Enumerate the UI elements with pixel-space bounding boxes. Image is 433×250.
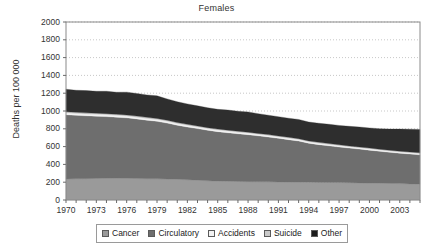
x-tick-label: 1970 xyxy=(51,206,81,215)
y-tick-label: 0 xyxy=(26,196,60,205)
legend-swatch-icon xyxy=(208,230,215,237)
legend-label: Accidents xyxy=(218,229,255,238)
legend-label: Other xyxy=(321,229,342,238)
legend-swatch-icon xyxy=(264,230,271,237)
chart-container: Females Deaths per 100 000 2000180016001… xyxy=(0,0,433,250)
x-tick-label: 1994 xyxy=(294,206,324,215)
x-tick-label: 1988 xyxy=(233,206,263,215)
x-tick-label: 1976 xyxy=(112,206,142,215)
y-tick-label: 1400 xyxy=(26,71,60,80)
chart-title: Females xyxy=(0,3,433,13)
legend-item: Suicide xyxy=(264,229,302,238)
y-tick-label: 1000 xyxy=(26,107,60,116)
x-tick-label: 1973 xyxy=(81,206,111,215)
legend-label: Cancer xyxy=(112,229,139,238)
legend-item: Other xyxy=(311,229,342,238)
legend-swatch-icon xyxy=(311,230,318,237)
legend-item: Accidents xyxy=(208,229,255,238)
x-tick-label: 1991 xyxy=(263,206,293,215)
legend-swatch-icon xyxy=(102,230,109,237)
y-axis-title: Deaths per 100 000 xyxy=(11,29,21,169)
legend-swatch-icon xyxy=(148,230,155,237)
y-tick-label: 2000 xyxy=(26,18,60,27)
x-tick-label: 1997 xyxy=(324,206,354,215)
x-tick-label: 2000 xyxy=(354,206,384,215)
x-tick-label: 2003 xyxy=(385,206,415,215)
x-tick-label: 1982 xyxy=(172,206,202,215)
legend-label: Suicide xyxy=(274,229,302,238)
legend-item: Cancer xyxy=(102,229,139,238)
y-tick-label: 1800 xyxy=(26,35,60,44)
legend-label: Circulatory xyxy=(158,229,199,238)
y-tick-label: 600 xyxy=(26,142,60,151)
x-tick-label: 1979 xyxy=(142,206,172,215)
legend-item: Circulatory xyxy=(148,229,199,238)
x-tick-label: 1985 xyxy=(203,206,233,215)
y-tick-label: 400 xyxy=(26,160,60,169)
y-tick-label: 1200 xyxy=(26,89,60,98)
chart-legend: CancerCirculatoryAccidentsSuicideOther xyxy=(96,224,348,243)
y-tick-label: 800 xyxy=(26,124,60,133)
y-tick-label: 200 xyxy=(26,178,60,187)
y-tick-label: 1600 xyxy=(26,53,60,62)
